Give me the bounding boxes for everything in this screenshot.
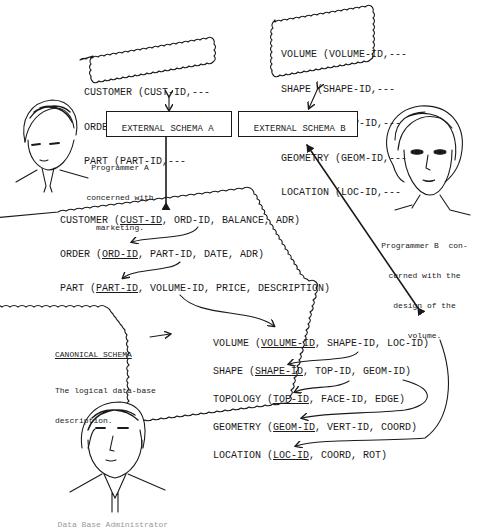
record-key: GEOM-ID [273, 422, 315, 433]
record-key: TOP-ID [273, 394, 309, 405]
arrow-shape-topology [295, 381, 349, 392]
caption-line: cerned with the [368, 271, 481, 281]
record-name: GEOMETRY [213, 422, 261, 433]
record-key: CUST-ID [120, 215, 162, 226]
caption-line: concerned with [80, 193, 160, 203]
record-fields: , TOP-ID, GEOM-ID) [303, 366, 411, 377]
canonical-description: The logical data-base [55, 386, 156, 396]
record-fields: , VERT-ID, COORD) [315, 422, 417, 433]
caption-line: Data Base Administrator [58, 520, 168, 529]
external-schema-b-label: EXTERNAL SCHEMA B [254, 124, 346, 134]
record-fields: , ORD-ID, BALANCE, ADR) [162, 215, 300, 226]
record-key: PART-ID [96, 283, 138, 294]
view-b-line: GEOMETRY (GEOM-ID,--- [281, 153, 407, 165]
external-schema-a-box: EXTERNAL SCHEMA A [106, 111, 232, 137]
record-name: PART [60, 283, 84, 294]
caption-line: Programmer A [80, 163, 160, 173]
programmer-a-face-icon [16, 100, 88, 192]
record-key: SHAPE-ID [255, 366, 303, 377]
record-name: ORDER [60, 249, 90, 260]
record-name: SHAPE [213, 366, 243, 377]
record-fields: , COORD, ROT) [309, 450, 387, 461]
record-key: ORD-ID [102, 249, 138, 260]
record-part: PART (PART-ID, VOLUME-ID, PRICE, DESCRIP… [60, 283, 330, 295]
record-name: LOCATION [213, 450, 261, 461]
record-shape: SHAPE (SHAPE-ID, TOP-ID, GEOM-ID) [213, 366, 411, 378]
external-schema-b-box: EXTERNAL SCHEMA B [238, 111, 358, 137]
record-key: VOLUME-ID [261, 338, 315, 349]
record-volume: VOLUME (VOLUME-ID, SHAPE-ID, LOC-ID) [213, 338, 429, 350]
view-b-line: LOCATION (LOC-ID,--- [281, 187, 407, 199]
view-a-line: CUSTOMER (CUST-ID,--- [84, 87, 210, 99]
record-order: ORDER (ORD-ID, PART-ID, DATE, ADR) [60, 249, 264, 261]
view-b-line: SHAPE (SHAPE-ID,--- [281, 84, 407, 96]
record-geometry: GEOMETRY (GEOM-ID, VERT-ID, COORD) [213, 422, 417, 434]
record-name: TOPOLOGY [213, 394, 261, 405]
arrow-order-part [123, 262, 180, 278]
canonical-schema-label: CANONICAL SCHEMA The logical data-base d… [55, 330, 156, 436]
record-fields: , FACE-ID, EDGE) [309, 394, 405, 405]
external-schema-a-label: EXTERNAL SCHEMA A [122, 124, 214, 134]
record-fields: , SHAPE-ID, LOC-ID) [315, 338, 429, 349]
programmer-c-caption: Data Base Administrator [48, 510, 168, 530]
arrow-part-volume [180, 295, 274, 326]
caption-line: design of the [368, 301, 481, 311]
canonical-description: description. [55, 416, 156, 426]
record-fields: , VOLUME-ID, PRICE, DESCRIPTION) [138, 283, 330, 294]
canonical-title: CANONICAL SCHEMA [55, 350, 156, 360]
programmer-a-caption: Programmer A concerned with marketing. [80, 143, 160, 243]
programmer-b-caption: Programmer B con- cerned with the design… [368, 221, 481, 351]
record-customer: CUSTOMER (CUST-ID, ORD-ID, BALANCE, ADR) [60, 215, 300, 227]
record-key: LOC-ID [273, 450, 309, 461]
arrow-volume-shape [289, 352, 358, 364]
record-fields: , PART-ID, DATE, ADR) [138, 249, 264, 260]
record-name: VOLUME [213, 338, 249, 349]
record-location: LOCATION (LOC-ID, COORD, ROT) [213, 450, 387, 462]
caption-line: Programmer B con- [368, 241, 481, 251]
view-b-line: VOLUME (VOLUME-ID,--- [281, 49, 407, 61]
record-topology: TOPOLOGY (TOP-ID, FACE-ID, EDGE) [213, 394, 405, 406]
record-name: CUSTOMER [60, 215, 108, 226]
